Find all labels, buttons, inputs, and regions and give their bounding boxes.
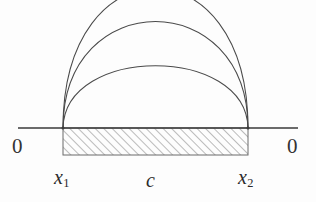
middle-arc — [63, 22, 248, 129]
diagram-svg — [0, 0, 316, 202]
c-label: c — [146, 170, 155, 190]
x2-base: x — [238, 166, 247, 188]
x1-base: x — [54, 166, 63, 188]
figure-canvas: 0 0 x1 c x2 — [0, 0, 316, 202]
hatched-interval — [63, 128, 248, 155]
x2-subscript: 2 — [247, 176, 253, 190]
x1-label: x1 — [54, 167, 69, 190]
left-endpoint-marker — [62, 127, 65, 130]
right-endpoint-marker — [247, 127, 250, 130]
x2-label: x2 — [238, 167, 253, 190]
zero-label-left: 0 — [12, 136, 23, 157]
zero-label-right: 0 — [287, 136, 298, 157]
inner-arc — [63, 66, 248, 128]
x1-subscript: 1 — [63, 176, 69, 190]
outer-arc — [63, 0, 248, 128]
